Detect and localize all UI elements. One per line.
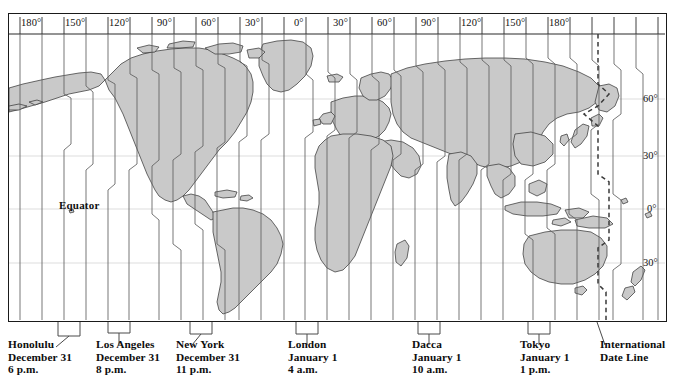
lon-label-180e: 180° [549, 17, 569, 28]
callout-date-line-line1: International [600, 338, 665, 351]
lon-label-60w: 60° [201, 17, 216, 28]
callout-honolulu-time: 6 p.m. [8, 363, 72, 376]
lon-label-0: 0° [294, 17, 304, 28]
callout-new-york-city: New York [176, 338, 240, 351]
callout-los-angeles-time: 8 p.m. [96, 363, 160, 376]
callout-honolulu-date: December 31 [8, 351, 72, 364]
callout-london-time: 4 a.m. [288, 363, 338, 376]
callout-tokyo: Tokyo January 1 1 p.m. [520, 338, 570, 376]
callout-new-york-date: December 31 [176, 351, 240, 364]
callout-dacca-city: Dacca [412, 338, 462, 351]
callout-dacca-date: January 1 [412, 351, 462, 364]
callout-tokyo-city: Tokyo [520, 338, 570, 351]
callout-london-date: January 1 [288, 351, 338, 364]
lat-label-30s: 30° [643, 257, 658, 268]
lon-label-60e: 60° [377, 17, 392, 28]
time-zone-map-page: 180° 150° 120° 90° 60° 30° 0° 30° 60° 90… [0, 0, 676, 382]
callout-new-york: New York December 31 11 p.m. [176, 338, 240, 376]
callout-los-angeles-date: December 31 [96, 351, 160, 364]
equator-label: Equator [59, 199, 100, 211]
world-map: 180° 150° 120° 90° 60° 30° 0° 30° 60° 90… [8, 13, 667, 322]
callout-london-city: London [288, 338, 338, 351]
lon-label-150e: 150° [505, 17, 525, 28]
lon-label-120e: 120° [461, 17, 481, 28]
lon-label-150w: 150° [65, 17, 85, 28]
callout-tokyo-date: January 1 [520, 351, 570, 364]
callout-dacca-time: 10 a.m. [412, 363, 462, 376]
callout-tokyo-time: 1 p.m. [520, 363, 570, 376]
callout-new-york-time: 11 p.m. [176, 363, 240, 376]
lat-label-60n: 60° [643, 93, 658, 104]
lon-label-30e: 30° [333, 17, 348, 28]
callout-dacca: Dacca January 1 10 a.m. [412, 338, 462, 376]
lon-label-90e: 90° [421, 17, 436, 28]
lat-label-30n: 30° [643, 150, 658, 161]
callout-honolulu: Honolulu December 31 6 p.m. [8, 338, 72, 376]
lat-label-0: 0° [647, 203, 656, 214]
lon-label-120w: 120° [109, 17, 129, 28]
callout-los-angeles: Los Angeles December 31 8 p.m. [96, 338, 160, 376]
lon-label-30w: 30° [245, 17, 260, 28]
callout-los-angeles-city: Los Angeles [96, 338, 160, 351]
lon-label-180w: 180° [21, 17, 41, 28]
callout-london: London January 1 4 a.m. [288, 338, 338, 376]
callout-international-date-line: International Date Line [600, 338, 665, 363]
lon-label-90w: 90° [157, 17, 172, 28]
callout-honolulu-city: Honolulu [8, 338, 72, 351]
callout-date-line-line2: Date Line [600, 351, 665, 364]
map-graphics [9, 14, 665, 320]
landmasses [9, 40, 652, 314]
